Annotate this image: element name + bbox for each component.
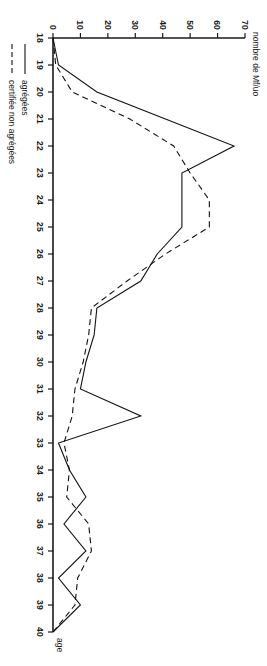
x-axis-title: age (55, 638, 65, 652)
x-tick-label: 24 (35, 195, 45, 205)
y-tick-label: 20 (103, 20, 113, 30)
series-line-agregees (53, 38, 234, 632)
plot-area: 1819202122232425262728293031323334353637… (0, 0, 267, 666)
x-tick-label: 39 (35, 600, 45, 610)
chart-page: 1819202122232425262728293031323334353637… (0, 0, 267, 666)
x-tick-label: 35 (35, 492, 45, 502)
x-tick-label: 37 (35, 546, 45, 556)
rotated-figure-container: 1819202122232425262728293031323334353637… (0, 0, 267, 666)
x-tick-label: 19 (35, 60, 45, 70)
x-tick-label: 25 (35, 222, 45, 232)
legend-label: agrégées (20, 80, 30, 115)
x-tick-label: 23 (35, 168, 45, 178)
chart-legend: agrégéescertifiée non agrégées (7, 44, 30, 164)
x-tick-label: 32 (35, 411, 45, 421)
x-tick-label: 21 (35, 114, 45, 124)
x-tick-label: 29 (35, 330, 45, 340)
x-tick-label: 40 (35, 627, 45, 637)
y-tick-label: 70 (240, 20, 250, 30)
y-axis-tick-labels: 010203040506070 (48, 20, 250, 30)
x-tick-label: 20 (35, 87, 45, 97)
x-axis-tick-labels: 1819202122232425262728293031323334353637… (35, 33, 45, 637)
y-tick-label: 0 (48, 25, 58, 30)
x-tick-label: 22 (35, 141, 45, 151)
y-tick-label: 40 (158, 20, 168, 30)
y-axis-title: nombre de Mf/uo (251, 32, 261, 97)
legend-label: certifiée non agrégées (7, 80, 17, 164)
x-tick-label: 36 (35, 519, 45, 529)
line-chart-svg: 1819202122232425262728293031323334353637… (0, 0, 267, 666)
y-tick-label: 10 (75, 20, 85, 30)
x-tick-label: 18 (35, 33, 45, 43)
x-tick-label: 33 (35, 438, 45, 448)
y-tick-label: 60 (212, 20, 222, 30)
x-tick-label: 28 (35, 303, 45, 313)
x-tick-label: 26 (35, 249, 45, 259)
x-tick-label: 34 (35, 465, 45, 475)
x-tick-label: 38 (35, 573, 45, 583)
x-tick-label: 31 (35, 384, 45, 394)
x-tick-label: 30 (35, 357, 45, 367)
y-tick-label: 50 (185, 20, 195, 30)
y-tick-label: 30 (130, 20, 140, 30)
x-tick-label: 27 (35, 276, 45, 286)
